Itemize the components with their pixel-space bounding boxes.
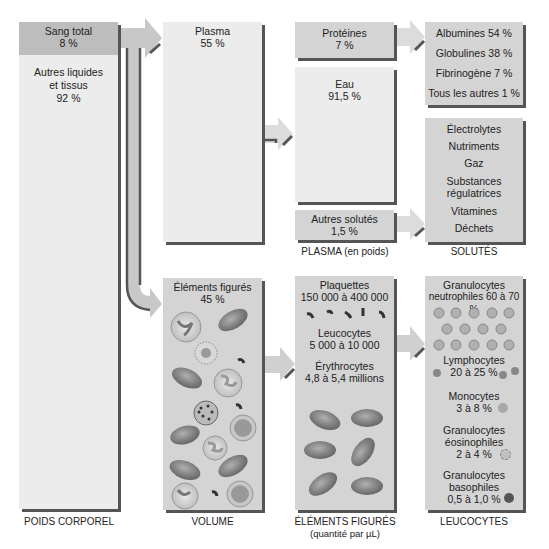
formed-elements-count-box: Plaquettes 150 000 à 400 000 Leucocytes … (295, 276, 394, 510)
water-value: 91,5 % (295, 90, 394, 103)
leukocytes-value: 5 000 à 10 000 (295, 339, 394, 352)
plasma-label: Plasma (163, 25, 262, 38)
eosinophil-icon (195, 342, 217, 364)
whole-blood-value: 8 % (19, 37, 118, 50)
basophil-icon (504, 493, 514, 503)
basophils-label-1: Granulocytes (425, 469, 523, 482)
leukocytes-column-label: LEUCOCYTES (425, 516, 523, 528)
other-solutes-value: 1,5 % (295, 225, 394, 238)
monocyte-icon (203, 436, 227, 460)
other-fluids-label-2: et tissus (19, 79, 118, 92)
eosinophil-icon (500, 449, 511, 460)
lymphocyte-icon (230, 415, 256, 441)
other-solutes-box: Autres solutés 1,5 % (295, 210, 394, 240)
gases-item: Gaz (425, 157, 523, 170)
plasma-box: Plasma 55 % (163, 22, 262, 242)
neutrophils-label-1: Granulocytes (425, 279, 523, 292)
water-label: Eau (295, 78, 394, 91)
neutrophil-icon (172, 483, 198, 509)
fibrinogen-item: Fibrinogène 7 % (425, 67, 523, 80)
other-fluids-value: 92 % (19, 92, 118, 105)
platelets-value: 150 000 à 400 000 (295, 291, 394, 304)
erythrocyte-icon (167, 456, 203, 484)
plasma-proteins-list-box: Albumines 54 % Globulines 38 % Fibrinogè… (425, 22, 523, 105)
whole-blood-label: Sang total (19, 25, 118, 38)
proteins-box: Protéines 7 % (295, 22, 394, 58)
platelets-icons (295, 306, 394, 326)
platelets-label: Plaquettes (295, 279, 394, 292)
proteins-label: Protéines (295, 27, 394, 40)
formed-elements-box: Éléments figurés 45 % (163, 278, 262, 510)
blood-cells-illustration (163, 278, 262, 510)
nutrients-item: Nutriments (425, 140, 523, 153)
other-solutes-list-box: Électrolytes Nutriments Gaz Substances r… (425, 118, 523, 242)
erythrocyte-icon (168, 422, 202, 447)
albumins-item: Albumines 54 % (425, 27, 523, 40)
erythrocytes-label: Érythrocytes (295, 360, 394, 373)
erythrocytes-value: 4,8 à 5,4 millions (295, 372, 394, 385)
formed-elements-column-sublabel: (quantité par µL) (285, 528, 405, 540)
formed-elements-column-label: ÉLÉMENTS FIGURÉS (285, 516, 405, 528)
other-fluids-label-1: Autres liquides (19, 66, 118, 79)
monocyte-icon (214, 369, 242, 397)
vitamins-item: Vitamines (425, 205, 523, 218)
globulins-item: Globulines 38 % (425, 47, 523, 60)
volume-column-label: VOLUME (163, 516, 262, 528)
eosinophils-label-1: Granulocytes (425, 424, 523, 437)
leukocytes-label: Leucocytes (295, 327, 394, 340)
other-solutes-label: Autres solutés (295, 213, 394, 226)
basophils-label-2: basophiles (425, 481, 523, 494)
monocytes-label: Monocytes (425, 390, 523, 403)
body-weight-box: Sang total 8 % Autres liquides et tissus… (19, 22, 118, 509)
regulatory-substances-item-2: régulatrices (425, 187, 523, 200)
wastes-item: Déchets (425, 222, 523, 235)
electrolytes-item: Électrolytes (425, 123, 523, 136)
plasma-column-label: PLASMA (en poids) (290, 246, 400, 258)
erythrocyte-icon (169, 363, 206, 393)
neutrophils-icons (425, 306, 523, 352)
other-proteins-item: Tous les autres 1 % (425, 87, 523, 100)
erythrocyte-icon (215, 304, 252, 336)
lymphocyte-icon (227, 481, 253, 507)
solutes-column-label: SOLUTÉS (425, 246, 523, 258)
eosinophils-label-2: éosinophiles (425, 436, 523, 449)
monocyte-icon (498, 403, 508, 413)
lymphocytes-icons (425, 363, 523, 383)
monocytes-value: 3 à 8 % (425, 402, 523, 415)
erythrocytes-illustration (295, 400, 394, 510)
leukocytes-breakdown-box: Granulocytes neutrophiles 60 à 70 % Lymp… (425, 276, 523, 510)
basophil-icon (194, 401, 218, 425)
water-box: Eau 91,5 % (295, 67, 394, 202)
neutrophil-icon (171, 312, 201, 342)
regulatory-substances-item-1: Substances (425, 175, 523, 188)
proteins-value: 7 % (295, 39, 394, 52)
body-weight-column-label: POIDS CORPOREL (8, 516, 130, 528)
plasma-value: 55 % (163, 37, 262, 50)
